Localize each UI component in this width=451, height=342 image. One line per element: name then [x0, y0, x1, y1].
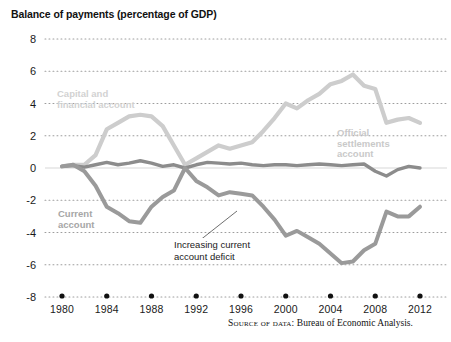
- source-text: Bureau of Economic Analysis.: [297, 318, 413, 328]
- y-axis-tick-label: -4: [14, 227, 36, 239]
- x-axis-tick-label: 2004: [309, 303, 353, 315]
- x-axis-tick-label: 2008: [353, 303, 397, 315]
- x-axis-tick-dot: [59, 293, 64, 298]
- y-axis-tick-label: 6: [14, 65, 36, 77]
- y-axis-tick-label: 8: [14, 33, 36, 45]
- current-account-label: Current account: [58, 209, 94, 230]
- x-axis-tick-label: 1996: [219, 303, 263, 315]
- x-axis-tick-label: 1988: [130, 303, 174, 315]
- x-axis-tick-dot: [328, 293, 333, 298]
- x-axis-tick-dot: [149, 293, 154, 298]
- y-axis-tick-label: -8: [14, 291, 36, 303]
- x-axis-tick-dot: [417, 293, 422, 298]
- x-axis-tick-label: 2000: [264, 303, 308, 315]
- x-axis-tick-dot: [194, 293, 199, 298]
- x-axis-tick-label: 1992: [174, 303, 218, 315]
- chart-plot-area: [0, 0, 451, 342]
- y-axis-tick-label: -2: [14, 194, 36, 206]
- callout-leader-line: [199, 211, 237, 241]
- y-axis-tick-label: -6: [14, 259, 36, 271]
- source-note: Source of data: Bureau of Economic Analy…: [228, 318, 413, 328]
- capital-account-label: Capital and financial account: [57, 89, 135, 110]
- x-axis-tick-dot: [283, 293, 288, 298]
- x-axis-tick-label: 1984: [85, 303, 129, 315]
- x-axis-tick-dot: [104, 293, 109, 298]
- x-axis-tick-label: 1980: [40, 303, 84, 315]
- chart-svg: [0, 0, 451, 342]
- y-axis-tick-label: 0: [14, 162, 36, 174]
- increasing-deficit-callout: Increasing current account deficit: [172, 238, 252, 263]
- y-axis-tick-label: 4: [14, 98, 36, 110]
- x-axis-tick-dot: [373, 293, 378, 298]
- x-axis-tick-label: 2012: [398, 303, 442, 315]
- y-axis-tick-label: 2: [14, 130, 36, 142]
- source-prefix: Source of data:: [228, 318, 294, 328]
- x-axis-tick-dot: [238, 293, 243, 298]
- balance-of-payments-figure: Balance of payments (percentage of GDP) …: [0, 0, 451, 342]
- official-settlements-label: Official settlements account: [337, 128, 390, 160]
